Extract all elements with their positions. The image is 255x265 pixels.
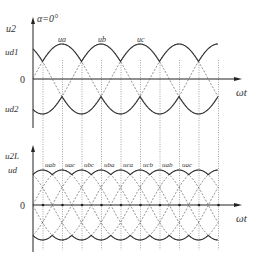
segment-label: uca xyxy=(123,161,134,169)
phase-label-b: ub xyxy=(98,35,106,44)
bottom-x-axis-arrow-icon xyxy=(234,203,242,207)
bottom-y-axis-label: u2L xyxy=(5,151,19,161)
top-x-axis-arrow-icon xyxy=(234,77,242,81)
rectified-output-envelope xyxy=(33,170,218,175)
top-zero-label: 0 xyxy=(20,74,25,85)
ud1-label: ud1 xyxy=(5,47,19,57)
ud2-label: ud2 xyxy=(5,104,19,114)
phase-label-a: ua xyxy=(58,35,66,44)
rectifier-waveform-diagram: u2 α=0° ud1 0 ud2 ωt ua ub uc u2L ud 0 ω… xyxy=(0,0,255,265)
bottom-y-axis-arrow-icon xyxy=(31,145,35,152)
bottom-x-axis-label: ωt xyxy=(236,212,248,224)
segment-label: ucb xyxy=(143,161,154,169)
ud-label: ud xyxy=(8,165,18,175)
top-y-axis-arrow-icon xyxy=(31,17,35,24)
segment-label: uac xyxy=(182,161,193,169)
phase-label-c: uc xyxy=(137,35,145,44)
bottom-plot: u2L ud 0 ωt uab uac ubc uba uca ucb uab … xyxy=(5,145,248,252)
bottom-negative-envelope xyxy=(33,236,218,241)
segment-label: ubc xyxy=(84,161,95,169)
segment-label: uab xyxy=(45,161,56,169)
top-y-axis-label: u2 xyxy=(6,23,16,34)
segment-labels: uab uac ubc uba uca ucb uab uac xyxy=(45,161,193,169)
top-x-axis-label: ωt xyxy=(236,86,248,98)
alpha-label: α=0° xyxy=(37,13,58,24)
segment-label: uac xyxy=(65,161,76,169)
segment-label: uba xyxy=(104,161,115,169)
top-plot: u2 α=0° ud1 0 ud2 ωt ua ub uc xyxy=(5,13,248,128)
segment-label: uab xyxy=(162,161,173,169)
bottom-zero-label: 0 xyxy=(20,200,25,211)
top-negative-envelope xyxy=(33,97,218,115)
commutation-dotted-lines xyxy=(43,60,219,250)
top-positive-envelope xyxy=(33,44,218,62)
